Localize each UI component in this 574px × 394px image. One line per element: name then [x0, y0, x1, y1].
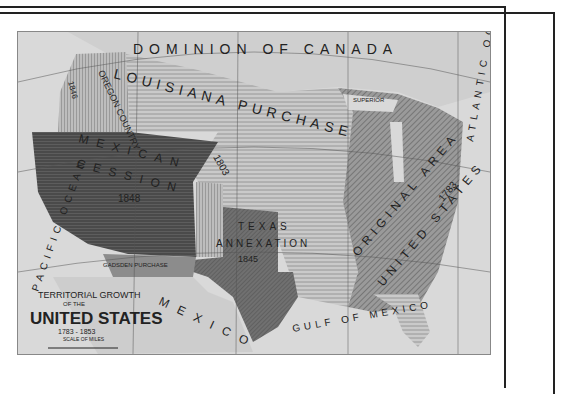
territorial-growth-map: DOMINION OF CANADA LOUISIANA PURCHASE 18…: [17, 31, 491, 355]
scale-label: SCALE OF MILES: [63, 336, 105, 342]
title-main: UNITED STATES: [30, 309, 163, 328]
title-line2: OF THE: [63, 301, 85, 307]
label-canada: DOMINION OF CANADA: [133, 41, 398, 57]
label-annexation: ANNEXATION: [216, 238, 310, 249]
label-superior: SUPERIOR: [353, 97, 385, 103]
label-mexican-year: 1848: [118, 193, 141, 204]
title-line1: TERRITORIAL GROWTH: [38, 290, 141, 300]
label-texas-year: 1845: [238, 254, 258, 264]
title-years: 1783 - 1853: [58, 328, 95, 335]
map-graphic: DOMINION OF CANADA LOUISIANA PURCHASE 18…: [18, 32, 490, 354]
label-gadsden: GADSDEN PURCHASE: [103, 262, 168, 268]
label-texas: TEXAS: [238, 221, 291, 232]
